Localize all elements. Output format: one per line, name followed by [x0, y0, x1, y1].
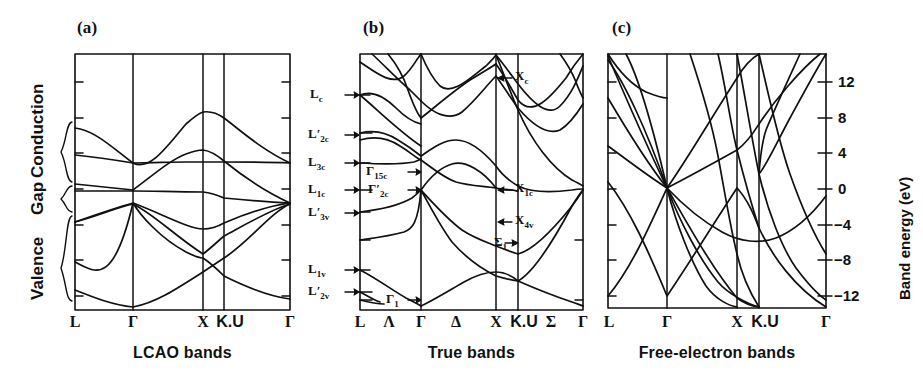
level-sub: 1 — [394, 299, 399, 309]
level-sub: 3c — [317, 162, 326, 172]
level-label-G1: Γ1 — [386, 291, 399, 309]
level-base: X — [515, 180, 524, 195]
level-label-L1c: L1c — [308, 181, 325, 199]
level-sub: 4v — [524, 220, 533, 230]
level-sub: 1c — [317, 189, 326, 199]
level-label-L1v: L1v — [308, 261, 326, 279]
energy-tick-0: 0 — [838, 180, 846, 197]
panel-b-frame — [360, 54, 583, 310]
panel-c-bands — [608, 54, 826, 307]
level-base: L — [308, 261, 317, 276]
level-base: X — [515, 68, 524, 83]
panel-a-xtick-3: K.U — [206, 313, 254, 331]
level-sub: 3v — [320, 212, 329, 222]
level-sub: 2c — [320, 134, 329, 144]
level-label-Lc: Lc — [310, 86, 323, 104]
side-label-valence: Valence — [28, 237, 48, 300]
panel-c-letter: (c) — [612, 18, 631, 38]
energy-tick-8: 8 — [838, 109, 846, 126]
energy-tick-neg8: −8 — [834, 251, 851, 268]
level-base: Σ — [494, 234, 503, 249]
panel-b-xtick-2: Γ — [406, 313, 436, 331]
level-sub: 15c — [374, 171, 387, 181]
level-sub: 2c — [380, 189, 389, 199]
level-label-G15c: Γ15c — [366, 163, 387, 181]
panel-a-frame — [75, 54, 290, 310]
panel-b-caption: True bands — [360, 344, 583, 362]
level-base: L — [308, 181, 317, 196]
panel-a-bands — [75, 112, 290, 307]
level-sub: 1c — [524, 188, 533, 198]
level-label-G2c: Γ′2c — [368, 181, 388, 199]
side-label-gap: Gap — [28, 182, 48, 215]
panel-c-xtick-4: Γ — [811, 313, 841, 331]
level-label-L3c: L3c — [308, 154, 325, 172]
level-label-L3v: L′3v — [308, 204, 329, 222]
panel-a-caption: LCAO bands — [75, 344, 290, 362]
level-base: X — [515, 212, 524, 227]
level-label-Sigma1: Σ1 — [494, 234, 507, 252]
side-label-conduction: Conduction — [28, 84, 48, 178]
panel-a-letter: (a) — [77, 18, 97, 38]
panel-b-xtick-1: Λ — [374, 313, 404, 331]
energy-axis-title: Band energy (eV) — [896, 177, 913, 300]
level-sub: 1v — [317, 269, 326, 279]
energy-tick-neg12: −12 — [834, 287, 859, 304]
level-base: L — [310, 86, 319, 101]
energy-tick-4: 4 — [838, 144, 846, 161]
panel-a-xtick-4: Γ — [275, 313, 305, 331]
level-label-L2v: L′2v — [308, 283, 329, 301]
level-base: L — [308, 154, 317, 169]
level-sub: c — [319, 94, 323, 104]
level-label-L2c: L′2c — [308, 126, 329, 144]
panel-b-xtick-6: Σ — [536, 313, 566, 331]
panel-c-xtick-0: L — [594, 313, 624, 331]
panel-c-caption: Free-electron bands — [598, 344, 836, 362]
level-base: L — [308, 126, 317, 141]
level-base: L — [308, 204, 317, 219]
band-structure-figure: (a) (b) (c) LCAO bands True bands Free-e… — [0, 0, 923, 381]
panel-b-bands — [360, 54, 583, 306]
panel-c-xtick-1: Γ — [652, 313, 682, 331]
panel-a-xtick-1: Γ — [118, 313, 148, 331]
energy-tick-neg4: −4 — [834, 216, 851, 233]
panel-a-xtick-0: L — [60, 313, 90, 331]
level-sub: 1 — [503, 242, 508, 252]
level-base: L — [308, 283, 317, 298]
panel-c-xtick-3: K.U — [741, 313, 789, 331]
panel-b-letter: (b) — [363, 18, 384, 38]
level-sub: 2v — [320, 291, 329, 301]
panel-b-xtick-3: Δ — [441, 313, 471, 331]
energy-tick-12: 12 — [838, 73, 855, 90]
level-label-X4v: X4v — [515, 212, 533, 230]
level-label-Xc: Xc — [515, 68, 528, 86]
level-sub: c — [524, 76, 528, 86]
panel-a-braces — [61, 122, 72, 301]
panel-b-xtick-0: L — [345, 313, 375, 331]
level-label-X1c: X1c — [515, 180, 533, 198]
